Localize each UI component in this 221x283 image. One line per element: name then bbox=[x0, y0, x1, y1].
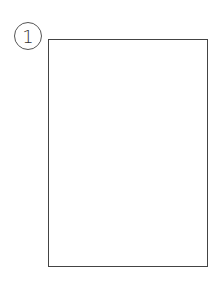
step-number-badge: 1 bbox=[14, 22, 42, 50]
blank-rectangle-frame bbox=[48, 39, 208, 267]
